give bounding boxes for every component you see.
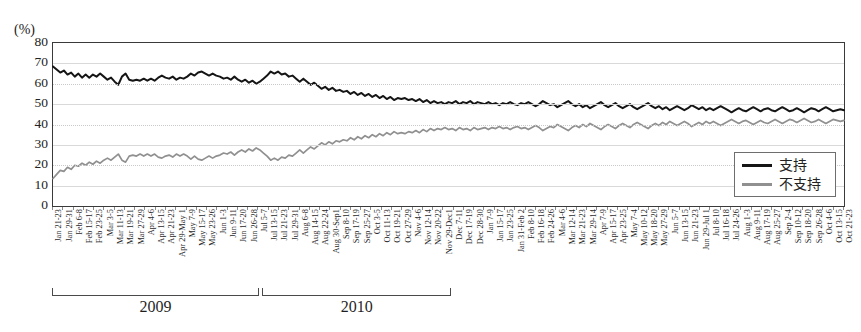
x-tick-label: Mar 29-14 [590,209,598,245]
x-tick-mark [740,207,741,210]
x-tick-label: Mar 11-13 [117,209,125,244]
x-tick-label: Jul 24-26 [733,209,741,240]
x-tick-mark [227,207,228,210]
x-tick-mark [432,207,433,210]
x-tick-label: Mar 21-23 [579,209,587,245]
x-tick-mark [627,207,628,210]
x-tick-label: Jul 13-15 [271,209,279,240]
gridline-40 [53,125,844,126]
x-tick-label: Sep 18-20 [805,209,813,243]
x-tick-mark [638,207,639,210]
x-tick-mark [658,207,659,210]
x-tick-label: Mar 4-6 [559,209,567,236]
legend-item-oppose: 不支持 [740,175,830,194]
x-tick-mark [114,207,115,210]
x-tick-mark [309,207,310,210]
x-tick-mark [494,207,495,210]
x-tick-mark [247,207,248,210]
gridline-50 [53,104,844,105]
x-tick-label: Mar 3-5 [107,209,115,236]
x-tick-mark [381,207,382,210]
x-tick-mark [607,207,608,210]
year-bracket-2009 [52,288,259,296]
x-tick-mark [329,207,330,210]
x-tick-label: Nov 12-14 [425,209,433,245]
x-tick-label: May 18-20 [651,209,659,246]
x-tick-label: Jun 9-11 [230,209,238,238]
x-tick-mark [689,207,690,210]
x-tick-mark [792,207,793,210]
x-tick-label: Oct 11-13 [384,209,392,242]
x-tick-label: Nov 4-6 [415,209,423,237]
opinion-poll-line-chart: (%) 01020304050607080 支持 不支持 Jan 21-23Ja… [0,0,861,332]
x-tick-label: Feb 24-26 [548,209,556,243]
x-tick-mark [617,207,618,210]
y-tick-label-20: 20 [8,157,48,171]
y-tick-label-10: 10 [8,178,48,192]
x-tick-label: Jul 16-18 [723,209,731,240]
x-tick-label: Jan 29-31 [66,209,74,242]
y-axis-tick-labels: 01020304050607080 [0,42,48,207]
x-tick-mark [720,207,721,210]
x-tick-label: Mar 19-21 [127,209,135,245]
x-tick-mark [175,207,176,210]
gridline-10 [53,186,844,187]
x-tick-label: Jan 23-25 [507,209,515,242]
series-line-oppose [53,118,844,178]
x-tick-label: Jun 29-Jul 1 [703,209,711,250]
x-tick-label: Feb 8-10 [528,209,536,239]
x-tick-label: Aug 6-8 [302,209,310,237]
x-tick-label: Jun 17-20 [240,209,248,242]
legend-label-support: 支持 [779,158,807,173]
x-tick-label: Sep 26-28 [816,209,824,243]
x-tick-label: Aug 25-27 [774,209,782,245]
year-label-2010: 2010 [262,298,451,316]
x-tick-mark [350,207,351,210]
x-tick-mark [401,207,402,210]
x-tick-mark [504,207,505,210]
y-tick-label-50: 50 [8,96,48,110]
y-tick-label-80: 80 [8,35,48,49]
x-tick-label: Oct 19-21 [394,209,402,243]
x-tick-mark [668,207,669,210]
x-tick-label: Jun 21-23 [692,209,700,242]
x-tick-label: Jul 5-7 [261,209,269,232]
x-tick-mark [566,207,567,210]
x-tick-label: Sep 25-27 [364,209,372,243]
x-tick-label: Aug 9-11 [754,209,762,241]
x-tick-label: Jun 26-28 [251,209,259,242]
x-tick-label: Apr 21-23 [168,209,176,244]
x-tick-mark [83,207,84,210]
x-tick-label: Jun 5-7 [672,209,680,234]
x-tick-mark [812,207,813,210]
legend: 支持 不支持 [734,152,836,197]
x-tick-label: May 7-4 [631,209,639,238]
x-tick-mark [771,207,772,210]
x-tick-mark [165,207,166,210]
x-tick-label: Oct 3-5 [374,209,382,234]
x-tick-mark [391,207,392,210]
x-tick-mark [124,207,125,210]
x-tick-mark [340,207,341,210]
x-tick-mark [453,207,454,210]
x-tick-mark [206,207,207,210]
x-tick-label: Sep 8-10 [343,209,351,239]
x-tick-mark [483,207,484,210]
x-tick-mark [525,207,526,210]
x-tick-label: Jul 8-10 [713,209,721,236]
x-tick-label: Feb 23-25 [96,209,104,243]
x-tick-label: Sep 17-19 [353,209,361,243]
x-tick-label: Apr 15-17 [610,209,618,244]
year-group-brackets: 20092010 [52,288,845,328]
series-line-support [53,66,844,112]
gridline-20 [53,165,844,166]
x-tick-mark [473,207,474,210]
legend-label-oppose: 不支持 [779,177,821,192]
x-tick-mark [268,207,269,210]
legend-item-support: 支持 [740,156,830,175]
y-tick-label-40: 40 [8,117,48,131]
x-tick-mark [370,207,371,210]
x-tick-mark [576,207,577,210]
x-tick-label: Jan 15-17 [497,209,505,242]
x-tick-mark [155,207,156,210]
